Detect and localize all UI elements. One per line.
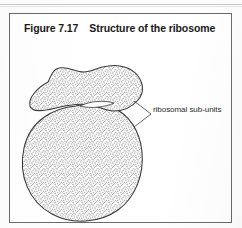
page-canvas: Figure 7.17Structure of the ribosome [0,0,242,228]
label-ribosomal-sub-units: ribosomal sub-units [153,105,221,114]
ribosome-diagram [10,14,233,224]
leader-line-large-subunit [134,114,151,127]
page-top-rule [0,4,242,5]
leader-line-small-subunit [134,101,151,114]
page-top-rule-shadow [0,6,242,7]
large-subunit [22,104,142,221]
figure-box: Figure 7.17Structure of the ribosome [9,13,232,223]
